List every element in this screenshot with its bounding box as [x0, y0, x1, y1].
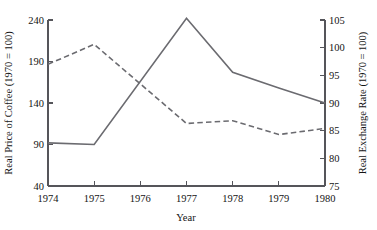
chart-container: 4090140190240 7580859095100105 197419751… [0, 0, 377, 230]
y-axis-left-tick-label: 240 [28, 15, 44, 26]
x-axis-tick-label: 1974 [38, 193, 60, 204]
y-axis-right-tick-label: 95 [329, 70, 340, 81]
x-axis-title: Year [176, 212, 196, 223]
y-axis-left-ticks: 4090140190240 [28, 15, 53, 192]
x-axis-tick-label: 1979 [268, 193, 289, 204]
y-axis-right-tick-label: 105 [329, 15, 345, 26]
y-axis-right-tick-label: 100 [329, 42, 345, 53]
series-coffee-price [48, 18, 325, 144]
x-axis-tick-label: 1976 [130, 193, 151, 204]
y-axis-left-tick-label: 190 [28, 56, 44, 67]
y-axis-right-tick-label: 85 [329, 125, 340, 136]
x-axis-tick-label: 1975 [84, 193, 105, 204]
y-axis-right-tick-label: 90 [329, 98, 340, 109]
x-axis-tick-label: 1978 [222, 193, 243, 204]
y-axis-left-title: Real Price of Coffee (1970 = 100) [3, 31, 15, 175]
y-axis-right-tick-label: 80 [329, 153, 340, 164]
line-chart: 4090140190240 7580859095100105 197419751… [0, 0, 377, 230]
x-axis-ticks: 1974197519761977197819791980 [38, 181, 336, 204]
y-axis-left-tick-label: 90 [34, 139, 45, 150]
data-series-layer [48, 18, 325, 144]
axis-lines [48, 20, 325, 186]
y-axis-right-title: Real Exchange Rate (1970 = 100) [357, 31, 369, 174]
x-axis-tick-label: 1977 [176, 193, 197, 204]
y-axis-right-tick-label: 75 [329, 181, 340, 192]
x-axis-tick-label: 1980 [315, 193, 336, 204]
y-axis-left-tick-label: 140 [28, 98, 44, 109]
y-axis-left-tick-label: 40 [34, 181, 45, 192]
